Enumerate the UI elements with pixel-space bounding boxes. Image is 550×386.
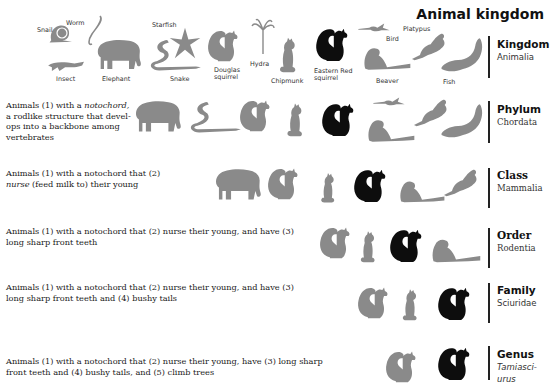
rank-taxon: Mammalia [497, 182, 550, 194]
beaver-icon [430, 236, 482, 264]
eastern-red-squirrel-icon [388, 224, 424, 266]
chipmunk-icon [358, 228, 378, 264]
label-snake: Snake [170, 76, 189, 83]
beaver-icon [398, 178, 446, 204]
label-chipmunk: Chipmunk [271, 78, 303, 85]
class-bar [488, 168, 490, 208]
platypus-icon [440, 166, 480, 200]
fish-icon [440, 36, 486, 76]
rank-name: Family [497, 284, 550, 297]
eastern-red-squirrel-icon [436, 342, 472, 384]
hydra-icon [250, 16, 276, 54]
elephant-icon [132, 98, 184, 134]
description-phylum: Animals (1) with a notochord, a rodlike … [6, 100, 136, 142]
phylum-bar [488, 101, 490, 143]
eastern-red-squirrel-icon [436, 282, 472, 324]
rank-taxon: Sciuridae [497, 297, 550, 309]
chipmunk-icon [285, 100, 305, 138]
genus-bar [488, 346, 490, 380]
label-hydra: Hydra [250, 61, 269, 68]
snake-icon [148, 36, 204, 76]
douglas-squirrel-icon [238, 96, 272, 134]
rank-phylum: Phylum Chordata [497, 103, 550, 128]
rank-name: Order [497, 229, 550, 242]
rank-family: Family Sciuridae [497, 284, 550, 309]
fish-icon [440, 102, 486, 142]
rank-taxon: Tamiasci-urus [497, 361, 539, 385]
diagram-title: Animal kingdom [416, 6, 544, 22]
elephant-icon [212, 166, 264, 202]
eastern-red-squirrel-icon [320, 98, 356, 140]
label-worm: Worm [66, 20, 85, 27]
bird-icon [372, 96, 406, 110]
description-class: Animals (1) with a notochord that (2) nu… [6, 168, 166, 189]
rank-taxon: Animalia [497, 51, 550, 63]
elephant-icon [94, 36, 144, 72]
beaver-icon [366, 116, 416, 144]
rank-genus: Genus Tamiasci-urus [497, 348, 550, 385]
family-bar [488, 283, 490, 323]
chipmunk-icon [278, 34, 298, 74]
beaver-icon [362, 44, 412, 72]
rank-order: Order Rodentia [497, 229, 550, 254]
rank-name: Genus [497, 348, 550, 361]
eastern-red-squirrel-icon [352, 164, 388, 206]
label-starfish: Starfish [152, 22, 177, 29]
rank-name: Class [497, 169, 550, 182]
kingdom-bar [488, 36, 490, 78]
description-order: Animals (1) with a notochord that (2) nu… [6, 226, 306, 247]
description-family: Animals (1) with a notochord that (2) nu… [6, 282, 306, 303]
douglas-squirrel-icon [206, 26, 240, 64]
label-eastern-red-squirrel: Eastern Redsquirrel [314, 68, 352, 82]
label-douglas-squirrel: Douglassquirrel [214, 67, 240, 81]
rank-taxon: Chordata [497, 116, 550, 128]
rank-name: Phylum [497, 103, 550, 116]
insect-icon [46, 56, 88, 73]
rank-class: Class Mammalia [497, 169, 550, 194]
label-fish: Fish [443, 79, 455, 86]
bird-icon [357, 22, 391, 36]
description-genus: Animals (1) with a notochord that (2) nu… [6, 356, 326, 377]
douglas-squirrel-icon [318, 222, 352, 262]
douglas-squirrel-icon [266, 164, 300, 202]
label-snail: Snail [37, 27, 53, 34]
label-elephant: Elephant [102, 76, 130, 83]
chipmunk-icon [400, 286, 420, 322]
order-bar [488, 228, 490, 268]
label-beaver: Beaver [376, 78, 399, 85]
rank-taxon: Rodentia [497, 242, 550, 254]
rank-kingdom: Kingdom Animalia [497, 38, 550, 63]
eastern-red-squirrel-icon [314, 22, 350, 66]
rank-name: Kingdom [497, 38, 550, 51]
label-bird: Bird [386, 36, 399, 43]
douglas-squirrel-icon [356, 282, 390, 322]
label-platypus: Platypus [403, 26, 430, 33]
douglas-squirrel-icon [384, 346, 418, 386]
chipmunk-icon [318, 170, 338, 204]
snake-icon [188, 98, 244, 138]
label-insect: Insect [56, 76, 75, 83]
